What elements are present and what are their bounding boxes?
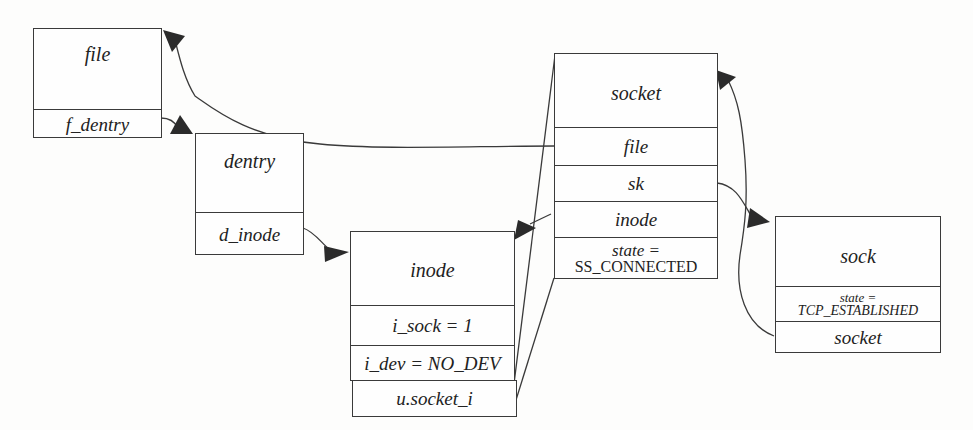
arrowhead-to-socket-top [716, 70, 736, 90]
socket-state-value: SS_CONNECTED [575, 259, 698, 275]
edge-socket-file-to-file [176, 44, 555, 147]
arrowhead-to-file [163, 30, 185, 52]
node-inode-title: inode [351, 259, 514, 282]
field-sock-state: state = TCP_ESTABLISHED [776, 286, 940, 321]
field-i-dev: i_dev = NO_DEV [351, 345, 514, 381]
socket-state-label: state = [612, 242, 660, 259]
arrowhead-to-inode [324, 246, 349, 262]
field-f-dentry: f_dentry [34, 109, 161, 138]
field-sock-socket: socket [776, 321, 940, 353]
node-sock: sock state = TCP_ESTABLISHED socket [775, 216, 941, 353]
field-d-inode: d_inode [196, 212, 303, 255]
node-socket: socket file sk inode state = SS_CONNECTE… [554, 53, 718, 279]
node-dentry-title: dentry [196, 150, 303, 173]
field-u-socket-i: u.socket_i [352, 380, 517, 417]
arrowhead-to-sock [747, 208, 770, 228]
arrowhead-to-dentry [170, 115, 193, 134]
node-file-title: file [34, 43, 161, 66]
node-socket-title: socket [555, 82, 717, 105]
field-socket-state: state = SS_CONNECTED [555, 237, 717, 279]
sock-state-label: state = [840, 291, 877, 304]
edge-socket-inode-to-inode [530, 214, 551, 224]
sock-state-value: TCP_ESTABLISHED [798, 304, 918, 318]
node-sock-title: sock [776, 245, 940, 268]
field-socket-file: file [555, 127, 717, 165]
edge-sock-to-socket [728, 80, 774, 336]
node-file: file f_dentry [33, 28, 162, 138]
field-socket-inode: inode [555, 201, 717, 237]
field-i-sock: i_sock = 1 [351, 305, 514, 345]
node-dentry: dentry d_inode [195, 133, 304, 255]
node-inode: inode i_sock = 1 i_dev = NO_DEV [350, 231, 515, 381]
edge-usocket-to-socket-bottom [516, 278, 554, 400]
field-u-socket-i-label: u.socket_i [396, 388, 473, 410]
field-socket-sk: sk [555, 165, 717, 201]
